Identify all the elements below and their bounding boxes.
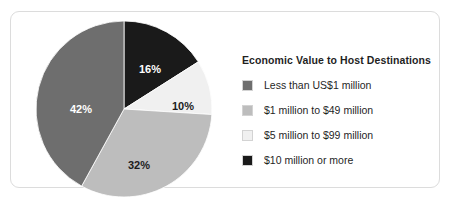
legend-item-label: $5 million to $99 million: [264, 129, 373, 142]
chart-frame: 16% 10% 32% 42% Economic Value to Host D…: [10, 11, 440, 188]
legend-swatch-icon: [242, 130, 253, 141]
legend-item-label: $10 million or more: [264, 154, 353, 167]
legend-title: Economic Value to Host Destinations: [242, 54, 442, 66]
legend-item-10-million-or-more[interactable]: $10 million or more: [242, 154, 442, 167]
pie-slice-group: [36, 21, 212, 197]
legend-item-1-to-49-million[interactable]: $1 million to $49 million: [242, 104, 442, 117]
legend-item-less-than-1-million[interactable]: Less than US$1 million: [242, 79, 442, 92]
legend-item-label: Less than US$1 million: [264, 79, 371, 92]
legend-item-5-to-99-million[interactable]: $5 million to $99 million: [242, 129, 442, 142]
legend-swatch-icon: [242, 80, 253, 91]
legend-item-label: $1 million to $49 million: [264, 104, 373, 117]
pie-chart-svg: 16% 10% 32% 42%: [36, 20, 214, 198]
legend-swatch-icon: [242, 155, 253, 166]
legend: Economic Value to Host Destinations Less…: [242, 54, 442, 167]
pie-chart: 16% 10% 32% 42%: [36, 20, 214, 198]
legend-swatch-icon: [242, 105, 253, 116]
